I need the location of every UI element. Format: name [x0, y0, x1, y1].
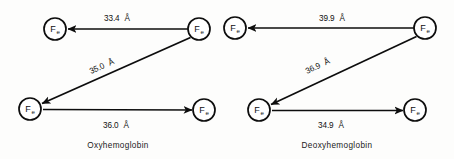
atom-symbol: F: [254, 105, 260, 115]
atom-deoxy-top-left: F e: [224, 17, 246, 39]
atom-subscript: e: [236, 27, 240, 34]
angstrom-unit: Å: [339, 120, 345, 130]
atom-symbol: F: [199, 105, 205, 115]
atom-symbol: F: [420, 23, 426, 33]
atom-symbol: F: [410, 105, 416, 115]
distance-value: 36.0: [103, 121, 119, 130]
distance-value: 35.0: [88, 61, 106, 76]
angstrom-unit: Å: [106, 56, 116, 68]
distance-value: 36.9: [304, 61, 322, 76]
atom-oxy-bottom-right: F e: [193, 99, 215, 121]
bond-oxy-diagonal-edge: [42, 38, 191, 104]
atom-subscript: e: [56, 28, 60, 35]
distance-label-oxy-top: 33.4 Å: [104, 13, 131, 23]
caption-oxyhemoglobin: Oxyhemoglobin: [87, 141, 149, 150]
angstrom-unit: Å: [124, 120, 130, 130]
atom-subscript: e: [200, 28, 204, 35]
atom-subscript: e: [416, 109, 420, 116]
caption-deoxyhemoglobin: Deoxyhemoglobin: [302, 141, 373, 150]
distance-label-oxy-bottom: 36.0 Å: [103, 120, 130, 130]
distance-label-deoxy-top: 39.9 Å: [319, 13, 346, 23]
atom-oxy-bottom-left: F e: [19, 98, 41, 120]
atom-subscript: e: [31, 108, 35, 115]
atom-subscript: e: [426, 27, 430, 34]
atom-deoxy-bottom-right: F e: [404, 99, 426, 121]
atom-oxy-top-right: F e: [188, 18, 210, 40]
angstrom-unit: Å: [125, 13, 131, 23]
figure-container: F e F e F e F e 33.4 Å: [0, 0, 454, 159]
angstrom-unit: Å: [340, 13, 346, 23]
atom-symbol: F: [194, 24, 200, 34]
bond-deoxy-diagonal-edge: [271, 37, 417, 105]
atom-oxy-top-left: F e: [44, 18, 66, 40]
atom-symbol: F: [230, 23, 236, 33]
distance-value: 33.4: [104, 14, 120, 23]
bond-oxy-bottom-edge: [43, 110, 192, 111]
atom-subscript: e: [205, 109, 209, 116]
atom-deoxy-top-right: F e: [414, 17, 436, 39]
distance-label-deoxy-bottom: 34.9 Å: [318, 120, 345, 130]
diagram-deoxyhemoglobin: F e F e F e F e 39.9 Å: [224, 13, 436, 150]
distance-label-deoxy-diagonal: 36.9 Å: [304, 56, 332, 76]
hemoglobin-iron-distance-figure: F e F e F e F e 33.4 Å: [0, 0, 454, 159]
atom-symbol: F: [25, 104, 31, 114]
diagram-oxyhemoglobin: F e F e F e F e 33.4 Å: [19, 13, 215, 150]
atom-deoxy-bottom-left: F e: [248, 99, 270, 121]
distance-value: 34.9: [318, 121, 334, 130]
angstrom-unit: Å: [322, 56, 332, 68]
atom-symbol: F: [50, 24, 56, 34]
distance-value: 39.9: [319, 14, 335, 23]
atom-subscript: e: [260, 109, 264, 116]
